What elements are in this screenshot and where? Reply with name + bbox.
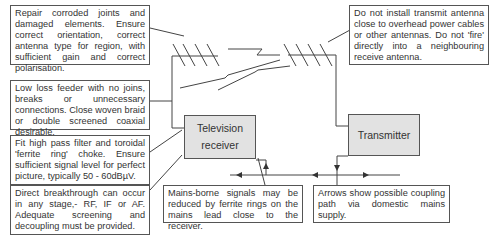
arrow-heads — [236, 163, 369, 178]
interference-zigzag-icon — [180, 49, 290, 90]
transmitter-block: Transmitter — [348, 114, 420, 156]
transmitter-label: Transmitter — [358, 127, 411, 144]
note-arrows: Arrows show possible coupling path via d… — [313, 185, 450, 223]
note-antenna-repair: Repair corroded joints and damaged eleme… — [10, 5, 150, 65]
transmit-antenna-icon — [284, 44, 348, 126]
note-feeder: Low loss feeder with no joins, breaks or… — [10, 80, 150, 130]
tv-label-line2: receiver — [201, 137, 238, 154]
note-transmit-antenna: Do not install transmit antenna close to… — [349, 5, 489, 65]
note-filter: Fit high pass filter and toroidal 'ferri… — [10, 135, 150, 185]
note-mains-borne: Mains-borne signals may be reduced by fe… — [163, 185, 303, 223]
tv-label-line1: Television — [197, 120, 243, 137]
television-receiver-block: Television receiver — [184, 115, 256, 159]
note-breakthrough: Direct breakthrough can occur in any sta… — [10, 185, 150, 235]
